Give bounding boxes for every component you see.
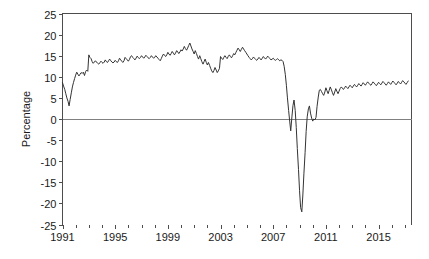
- y-tick-label: -10: [41, 156, 57, 168]
- y-tick-label: 20: [44, 30, 56, 42]
- y-tick-label: 10: [44, 72, 56, 84]
- chart-container: 2520151050-5-10-15-20-25 199119951999200…: [0, 0, 429, 259]
- data-series-line: [63, 43, 409, 212]
- x-tick-label: 2015: [366, 231, 390, 243]
- y-tick-label: -20: [41, 198, 57, 210]
- y-tick-label: 15: [44, 51, 56, 63]
- line-chart: 2520151050-5-10-15-20-25 199119951999200…: [0, 0, 429, 259]
- y-tick-label: -15: [41, 177, 57, 189]
- y-tick-label: 0: [50, 114, 56, 126]
- x-tick-label: 2003: [208, 231, 232, 243]
- y-tick-label: 25: [44, 9, 56, 21]
- x-axis-tick-labels: 1991199519992003200720112015: [50, 231, 391, 243]
- y-tick-label: -5: [47, 135, 57, 147]
- x-tick-label: 1995: [103, 231, 127, 243]
- x-tick-label: 1999: [156, 231, 180, 243]
- x-tick-label: 1991: [50, 231, 74, 243]
- y-axis-ticks: [59, 15, 63, 226]
- y-tick-label: 5: [50, 93, 56, 105]
- y-axis-title: Percentage: [20, 91, 32, 147]
- x-tick-label: 2011: [314, 231, 338, 243]
- x-tick-label: 2007: [261, 231, 285, 243]
- x-axis-ticks: [64, 225, 406, 230]
- y-axis-tick-labels: 2520151050-5-10-15-20-25: [41, 9, 57, 232]
